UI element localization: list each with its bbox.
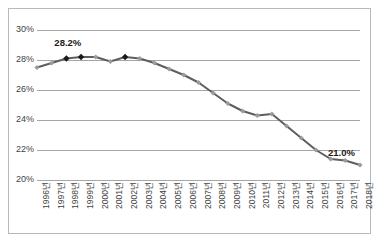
series-line: [37, 57, 360, 165]
x-axis-tick-label: 2011년: [261, 182, 271, 208]
data-point-marker: [78, 54, 84, 60]
y-axis-tick-label: 20%: [4, 175, 34, 184]
data-point-marker: [137, 56, 142, 61]
data-point-marker: [49, 60, 54, 65]
x-axis-tick-label: 2010년: [247, 182, 257, 209]
data-point-marker: [108, 59, 113, 64]
x-axis-tick-label: 1996년: [41, 182, 51, 209]
x-axis: 1996년1997년1998년1999년2000년2001년2002년2003년…: [37, 182, 360, 232]
x-axis-tick-label: 2017년: [349, 182, 359, 209]
data-value-label: 28.2%: [54, 38, 81, 48]
x-axis-tick-label: 2004년: [158, 182, 168, 209]
y-axis-tick-label: 24%: [4, 115, 34, 124]
x-axis-tick-label: 1997년: [56, 182, 66, 209]
x-axis-tick-label: 2015년: [320, 182, 330, 209]
data-point-marker: [122, 54, 128, 60]
x-axis-tick-label: 2013년: [291, 182, 301, 209]
x-axis-tick-label: 2003년: [144, 182, 154, 209]
x-axis-tick-label: 1999년: [85, 182, 95, 209]
y-axis-tick-label: 26%: [4, 85, 34, 94]
gridline: [37, 180, 360, 181]
y-axis-tick-label: 22%: [4, 145, 34, 154]
x-axis-tick-label: 2008년: [217, 182, 227, 209]
x-axis-tick-label: 2014년: [305, 182, 315, 209]
data-point-marker: [343, 158, 348, 163]
x-axis-tick-label: 2012년: [276, 182, 286, 209]
y-axis-tick-label: 28%: [4, 55, 34, 64]
y-axis-tick-label: 30%: [4, 25, 34, 34]
data-point-marker: [93, 54, 98, 59]
x-axis-tick-label: 1998년: [70, 182, 80, 209]
y-axis: 30%28%26%24%22%20%: [0, 0, 34, 243]
x-axis-tick-label: 2005년: [173, 182, 183, 209]
x-axis-tick-label: 2000년: [100, 182, 110, 209]
x-axis-tick-label: 2007년: [203, 182, 213, 209]
data-value-label: 21.0%: [328, 148, 355, 158]
x-axis-tick-label: 2016년: [335, 182, 345, 209]
plot-area: 28.2%21.0%: [37, 30, 360, 180]
x-axis-tick-label: 2002년: [129, 182, 139, 209]
x-axis-tick-label: 2006년: [188, 182, 198, 209]
x-axis-tick-label: 2009년: [232, 182, 242, 209]
data-point-marker: [255, 113, 260, 118]
data-point-marker: [63, 55, 69, 61]
line-series: [37, 30, 360, 180]
chart-figure: 30%28%26%24%22%20% 28.2%21.0% 1996년1997년…: [0, 0, 380, 243]
x-axis-tick-label: 2018년: [364, 182, 374, 209]
x-axis-tick-label: 2001년: [114, 182, 124, 209]
